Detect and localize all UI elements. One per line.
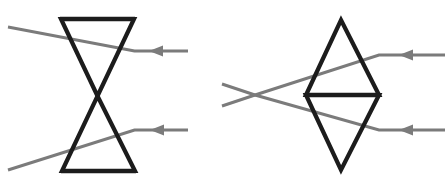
diagram-svg	[0, 0, 445, 188]
left-panel-lower-ray	[8, 125, 188, 170]
upper-ray-arrowhead-icon	[149, 46, 163, 57]
diamond-lower-triangle	[306, 95, 379, 170]
left-panel	[8, 19, 188, 171]
lower-ray-path	[222, 84, 445, 130]
lower-ray-arrowhead-icon	[150, 125, 164, 136]
bowtie-upper-triangle	[61, 19, 134, 96]
ray-diagram-figure	[0, 0, 445, 188]
lower-ray-arrowhead-icon	[399, 125, 413, 136]
right-panel	[222, 20, 445, 170]
lower-ray-path	[8, 130, 188, 170]
bowtie-lens-symbol	[60, 19, 136, 171]
right-panel-lower-ray	[222, 84, 445, 135]
upper-ray-arrowhead-icon	[399, 50, 413, 61]
diamond-lens-symbol	[305, 20, 380, 170]
left-panel-upper-ray	[8, 27, 188, 56]
right-panel-upper-ray	[222, 50, 445, 106]
upper-ray-path	[222, 55, 445, 106]
